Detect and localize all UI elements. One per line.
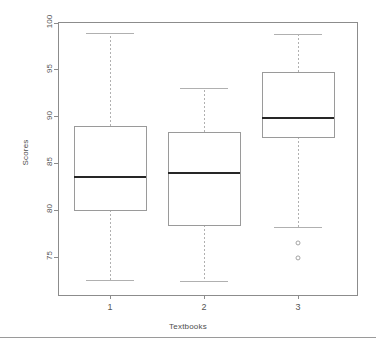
- box-group-2: [168, 89, 241, 282]
- x-tick-label-1: 1: [100, 302, 120, 312]
- boxplot-canvas: [0, 0, 376, 350]
- y-tick-label-95: 95: [45, 55, 54, 81]
- box-2: [169, 132, 241, 226]
- y-tick-label-80: 80: [45, 196, 54, 222]
- box-group-3: [262, 34, 335, 260]
- plot-frame: [59, 23, 358, 296]
- outlier-3-1: [296, 241, 300, 245]
- y-tick-label-90: 90: [45, 102, 54, 128]
- y-axis-title: Scores: [21, 123, 30, 183]
- y-tick-label-100: 100: [45, 9, 54, 35]
- y-tick-label-75: 75: [45, 243, 54, 269]
- x-tick-label-2: 2: [194, 302, 214, 312]
- box-group-1: [74, 33, 147, 280]
- y-tick-label-85: 85: [45, 149, 54, 175]
- box-1: [75, 126, 147, 210]
- x-tick-label-3: 3: [288, 302, 308, 312]
- box-3: [263, 72, 335, 138]
- x-axis-title: Textbooks: [0, 322, 376, 331]
- outlier-3-2: [296, 256, 300, 260]
- figure-bottom-divider: [0, 337, 376, 338]
- boxplot-figure: Scores Textbooks 7580859095100 123: [0, 0, 376, 350]
